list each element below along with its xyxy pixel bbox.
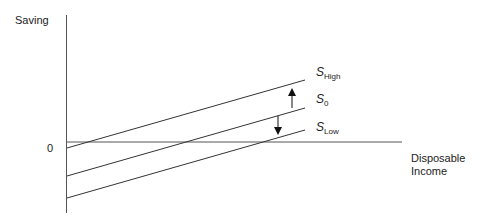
x-axis-label: Disposable Income [411,152,465,178]
line-s-low [67,130,305,198]
label-s-low: SLow [316,120,339,136]
line-s-high [67,80,305,148]
label-s-0: S0 [316,92,328,108]
label-s-high: SHigh [316,65,340,81]
origin-label: 0 [47,142,53,155]
saving-diagram [0,0,477,222]
x-axis-label-line1: Disposable [411,152,465,165]
y-axis-label: Saving [15,14,49,27]
x-axis-label-line2: Income [411,165,465,178]
